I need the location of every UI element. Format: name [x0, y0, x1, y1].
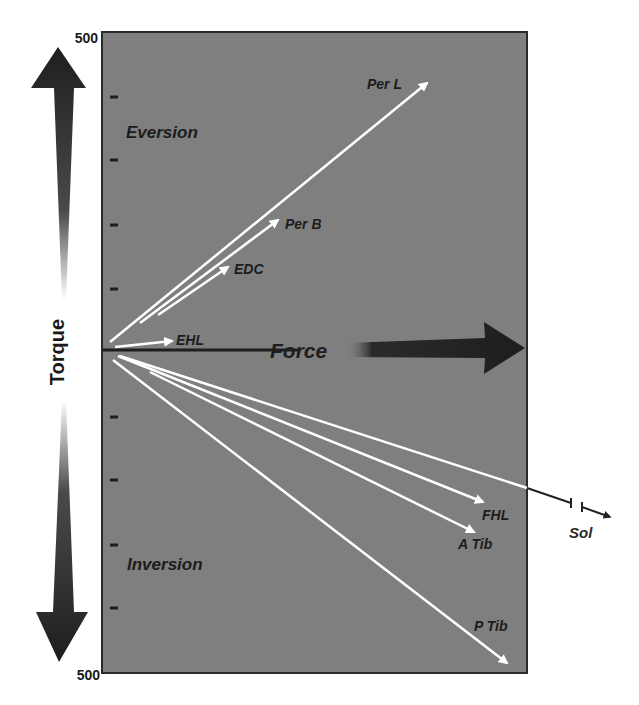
label-sol: Sol [569, 524, 593, 541]
label-fhl: FHL [482, 507, 509, 523]
y-axis-top-value: 500 [75, 30, 99, 46]
torque-down-arrow-icon [36, 400, 88, 662]
torque-label: Torque [46, 319, 68, 385]
torque-up-arrow-icon [31, 47, 86, 300]
inversion-label: Inversion [127, 555, 203, 574]
eversion-label: Eversion [126, 123, 198, 142]
vector-sol-extension [527, 488, 610, 517]
label-per-b: Per B [285, 216, 322, 232]
label-p-tib: P Tib [474, 618, 508, 634]
label-edc: EDC [234, 261, 264, 277]
force-label: Force [270, 339, 328, 362]
y-axis-bottom-value: 500 [77, 667, 101, 683]
label-per-l: Per L [367, 76, 402, 92]
label-a-tib: A Tib [457, 536, 493, 552]
label-ehl: EHL [176, 332, 204, 348]
torque-force-diagram: Torque 500 500 Force Eversion Inversion [0, 0, 639, 705]
